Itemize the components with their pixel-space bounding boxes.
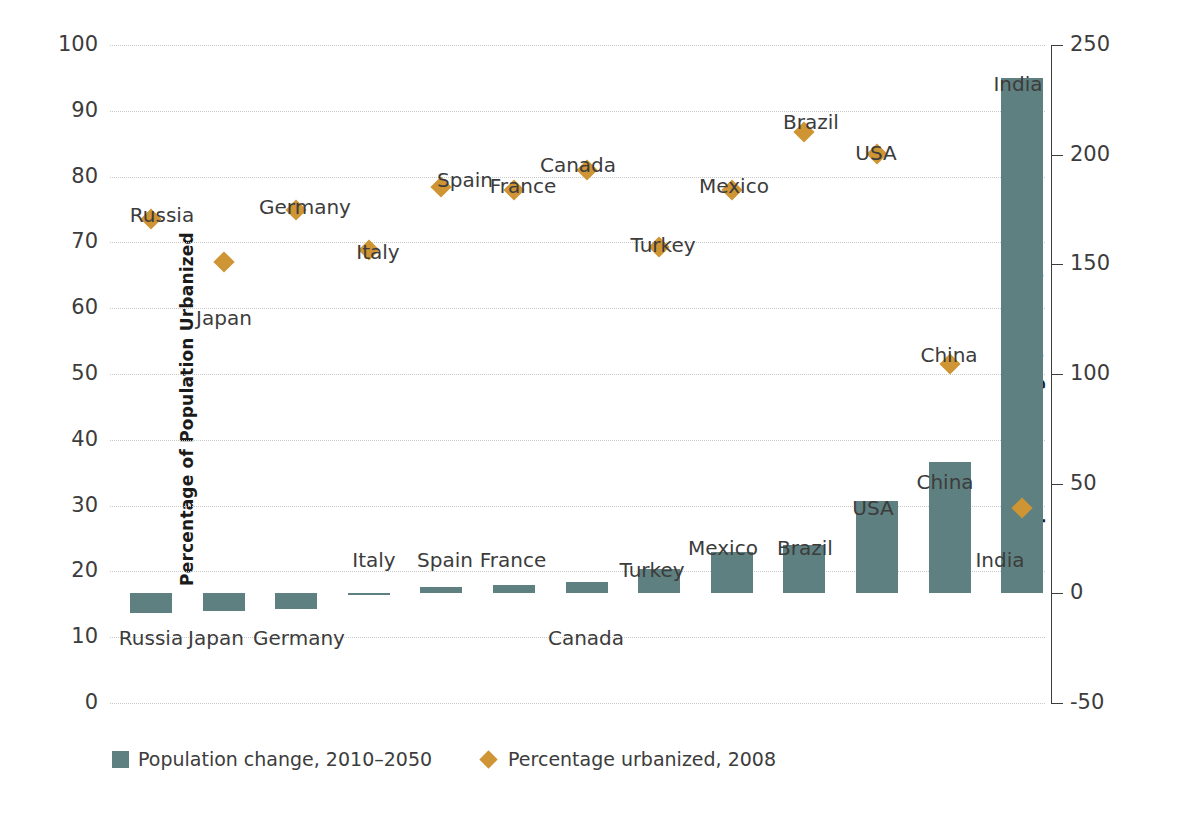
gridline-100 [110,45,1045,46]
bar-label-turkey: Turkey [619,560,684,580]
marker-label-italy: Italy [356,242,399,262]
right-axis-tick-100: 100 [1070,363,1110,384]
left-axis-tick-80: 80 [38,166,98,187]
gridline-50 [110,374,1045,375]
marker-label-usa: USA [855,143,896,163]
left-axis-tick-30: 30 [38,495,98,516]
right-axis-tickmark-50 [1051,484,1063,485]
marker-label-russia: Russia [130,205,194,225]
legend-item-percentage-urbanized[interactable]: Percentage urbanized, 2008 [478,748,776,770]
legend-item-population-change[interactable]: Population change, 2010–2050 [112,748,432,770]
gridline-90 [110,111,1045,112]
right-axis-tickmark-100 [1051,374,1063,375]
legend-label-1: Percentage urbanized, 2008 [508,748,776,770]
marker-label-turkey: Turkey [630,235,695,255]
right-axis-tickmark-250 [1051,45,1063,46]
bar-label-usa: USA [852,498,893,518]
marker-label-canada: Canada [540,155,616,175]
bar-label-mexico: Mexico [688,538,758,558]
gridline-40 [110,440,1045,441]
right-axis-tickmark-200 [1051,155,1063,156]
right-axis-tick-50: 50 [1070,473,1097,494]
diamond-swatch-icon [479,750,497,768]
plot-area [110,45,1045,703]
bar-label-germany: Germany [253,628,345,648]
marker-label-spain: Spain [437,170,493,190]
right-axis-tick-0: 0 [1070,582,1083,603]
marker-label-mexico: Mexico [699,176,769,196]
legend-label-0: Population change, 2010–2050 [138,748,432,770]
gridline-70 [110,242,1045,243]
marker-label-france: France [490,176,557,196]
right-axis-tick-200: 200 [1070,144,1110,165]
marker-label-japan: Japan [196,308,252,328]
left-axis-tick-100: 100 [38,34,98,55]
left-axis-tick-0: 0 [38,692,98,713]
bar-france [493,585,535,594]
marker-japan [213,252,234,273]
bar-germany [275,593,317,608]
right-axis-tickmark-150 [1051,264,1063,265]
bar-canada [566,582,608,593]
left-axis-tick-50: 50 [38,363,98,384]
bar-spain [420,587,462,594]
left-axis-tick-10: 10 [38,626,98,647]
bar-label-japan: Japan [188,628,244,648]
right-axis-tick-250: 250 [1070,34,1110,55]
right-axis-tick--50: -50 [1070,692,1104,713]
bar-italy [348,593,390,595]
bar-label-russia: Russia [119,628,183,648]
marker-label-india: India [975,550,1024,570]
left-axis-tick-20: 20 [38,560,98,581]
bar-swatch-icon [112,751,129,768]
bar-label-brazil: Brazil [777,538,833,558]
bar-russia [130,593,172,613]
bar-label-india: India [993,74,1042,94]
bar-japan [203,593,245,611]
right-axis-tick-150: 150 [1070,253,1110,274]
chart-legend: Population change, 2010–2050 Percentage … [112,748,776,770]
left-axis-tick-70: 70 [38,231,98,252]
right-axis-tickmark--50 [1051,703,1063,704]
gridline-20 [110,571,1045,572]
gridline-30 [110,506,1045,507]
right-axis-tickmark-0 [1051,593,1063,594]
bar-label-spain: Spain [417,550,473,570]
left-axis-tick-90: 90 [38,100,98,121]
marker-label-china: China [920,345,977,365]
marker-label-brazil: Brazil [783,112,839,132]
gridline-0 [110,703,1045,704]
left-axis-tick-40: 40 [38,429,98,450]
bar-label-china: China [916,472,973,492]
bar-label-italy: Italy [352,550,395,570]
bar-label-france: France [480,550,547,570]
bar-label-canada: Canada [548,628,624,648]
left-axis-tick-60: 60 [38,297,98,318]
marker-label-germany: Germany [259,197,351,217]
